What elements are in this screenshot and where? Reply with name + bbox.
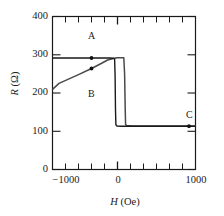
x-tick-label-0: 0 [105, 175, 131, 186]
x-tick-label-minus1000: −1000 [43, 175, 89, 186]
annotation-label-b: B [88, 89, 95, 99]
y-tick-label-100: 100 [14, 126, 48, 137]
plot-frame [53, 17, 196, 170]
data-marker-a [90, 56, 94, 60]
data-marker-b [90, 67, 94, 71]
axes-box [53, 17, 196, 170]
figure-container: 400 300 200 100 0 −1000 0 1000 R (Ω) H (… [0, 0, 224, 216]
annotation-label-c: C [186, 110, 193, 120]
x-tick-label-1000: 1000 [175, 175, 217, 186]
annotation-label-a: A [88, 31, 95, 41]
y-axis-title-symbol: R [9, 89, 20, 95]
y-axis-title: R (Ω) [9, 54, 20, 114]
y-tick-label-400: 400 [14, 11, 48, 22]
x-axis-title: H (Oe) [52, 196, 198, 207]
x-axis-title-unit: (Oe) [118, 196, 140, 207]
y-axis-title-unit: (Ω) [9, 72, 20, 89]
x-axis-title-symbol: H [110, 196, 118, 207]
data-marker-c [187, 124, 191, 128]
y-tick-label-0: 0 [14, 164, 48, 175]
